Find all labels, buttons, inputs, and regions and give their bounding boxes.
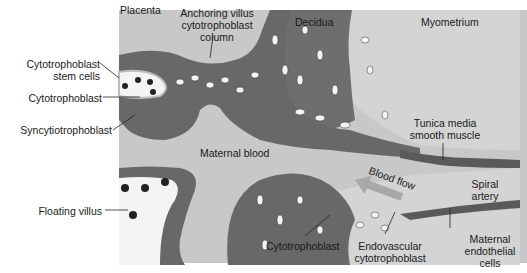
label-anchoring-villus-line3: column — [172, 31, 262, 43]
label-cyto-stem-line2: stem cells — [0, 70, 100, 82]
label-tunica-media: Tunica media smooth muscle — [405, 117, 485, 141]
label-maternal-endo-line2: endothelial — [460, 245, 520, 257]
label-maternal-blood: Maternal blood — [200, 147, 269, 159]
label-anchoring-villus-line2: cytotrophoblast — [172, 19, 262, 31]
label-cyto-stem-line1: Cytotrophoblast — [0, 58, 100, 70]
label-endovascular-cytotrophoblast: Endovascular cytotrophoblast — [350, 240, 430, 264]
label-spiral-artery: Spiral artery — [460, 178, 510, 202]
label-maternal-endo-line3: cells — [460, 257, 520, 269]
label-endovascular-line1: Endovascular — [350, 240, 430, 252]
label-spiral-line2: artery — [460, 190, 510, 202]
label-myometrium: Myometrium — [421, 16, 479, 28]
label-decidua: Decidua — [295, 16, 334, 28]
label-floating-villus: Floating villus — [0, 205, 102, 217]
label-maternal-endo-line1: Maternal — [460, 233, 520, 245]
label-maternal-endothelial-cells: Maternal endothelial cells — [460, 233, 520, 269]
label-cytotrophoblast-bottom: Cytotrophoblast — [266, 240, 340, 252]
label-cytotrophoblast-stem-cells: Cytotrophoblast stem cells — [0, 58, 100, 82]
label-placenta: Placenta — [120, 4, 161, 16]
label-anchoring-villus: Anchoring villus cytotrophoblast column — [172, 7, 262, 43]
label-anchoring-villus-line1: Anchoring villus — [172, 7, 262, 19]
label-endovascular-line2: cytotrophoblast — [350, 252, 430, 264]
label-tunica-line1: Tunica media — [405, 117, 485, 129]
label-cytotrophoblast-left: Cytotrophoblast — [0, 92, 102, 104]
label-tunica-line2: smooth muscle — [405, 129, 485, 141]
label-syncytiotrophoblast: Syncytiotrophoblast — [0, 124, 112, 136]
label-spiral-line1: Spiral — [460, 178, 510, 190]
